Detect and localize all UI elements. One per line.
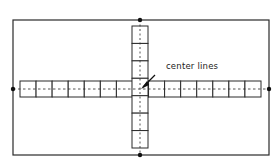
horizontal-strip-cell xyxy=(229,81,245,97)
right-marker-dot xyxy=(267,87,271,91)
horizontal-strip-cell xyxy=(84,81,100,97)
center-lines-diagram xyxy=(0,0,280,168)
bottom-marker-dot xyxy=(138,153,142,157)
horizontal-strip-cell xyxy=(149,81,165,97)
center-lines-label: center lines xyxy=(166,61,218,71)
horizontal-strip-cell xyxy=(68,81,84,97)
left-marker-dot xyxy=(11,87,15,91)
top-marker-dot xyxy=(138,18,142,22)
